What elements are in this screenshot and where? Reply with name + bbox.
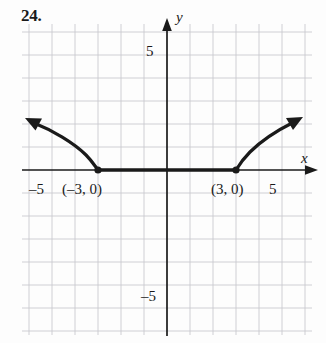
marked-point-right: [232, 166, 239, 173]
y-axis-label: y: [176, 9, 183, 26]
annotation-right-root: (3, 0): [211, 181, 244, 198]
coordinate-plane: [0, 0, 326, 343]
y-tick-label-neg5: –5: [141, 288, 156, 305]
curve-right-branch: [236, 117, 303, 170]
curve-left-branch: [25, 118, 98, 170]
x-axis-label: x: [301, 150, 308, 167]
marked-point-left: [94, 166, 101, 173]
y-axis-arrow-head: [162, 18, 172, 31]
x-tick-label-5: 5: [269, 181, 277, 198]
annotation-left-root: (–3, 0): [62, 181, 102, 198]
y-tick-label-5: 5: [146, 43, 154, 60]
y-axis: [162, 18, 172, 336]
figure-container: 24.: [0, 0, 326, 343]
x-tick-label-neg5: –5: [29, 181, 44, 198]
